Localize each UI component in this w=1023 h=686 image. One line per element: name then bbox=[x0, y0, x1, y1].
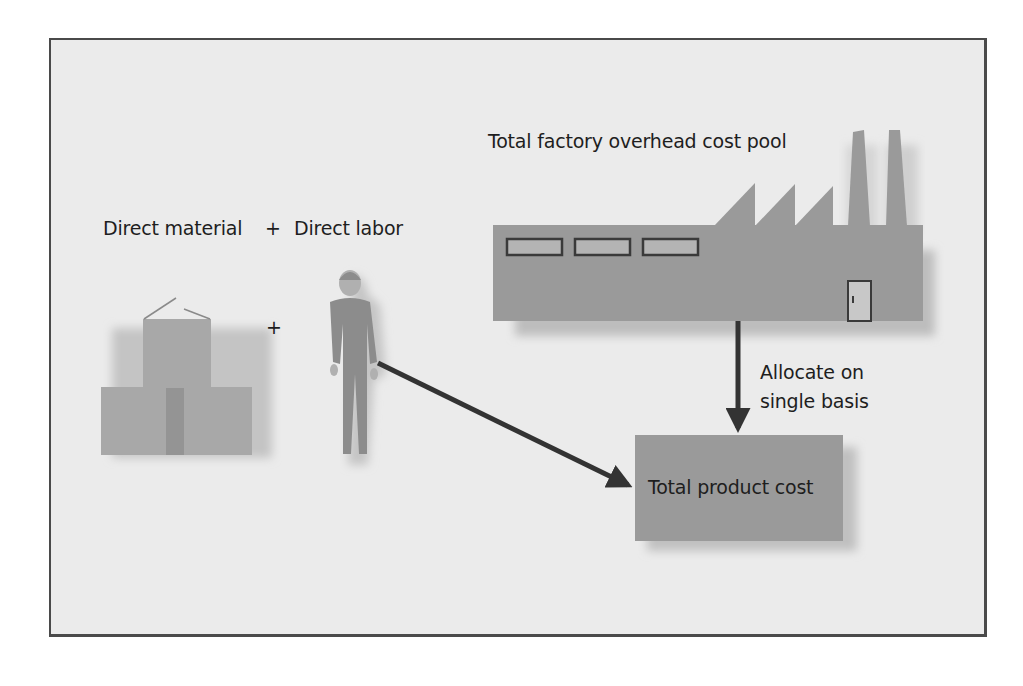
overhead-pool-label: Total factory overhead cost pool bbox=[488, 130, 787, 152]
factory-door-icon bbox=[848, 281, 871, 321]
allocate-label-line2: single basis bbox=[760, 390, 869, 412]
factory-icon bbox=[493, 130, 935, 336]
direct-labor-label: Direct labor bbox=[294, 217, 403, 239]
factory-window-2 bbox=[575, 239, 630, 255]
allocate-label-line1: Allocate on bbox=[760, 361, 864, 383]
stacked-boxes-icon bbox=[101, 298, 272, 458]
diagram-artwork bbox=[0, 0, 1023, 686]
plus-sign-between: + bbox=[266, 316, 282, 338]
factory-window-1 bbox=[507, 239, 562, 255]
direct-material-label: Direct material bbox=[103, 217, 242, 239]
factory-window-3 bbox=[643, 239, 698, 255]
labor-to-product-arrow bbox=[378, 363, 628, 485]
worker-icon bbox=[330, 270, 386, 465]
plus-sign-header: + bbox=[265, 217, 281, 239]
product-cost-label: Total product cost bbox=[648, 476, 813, 498]
